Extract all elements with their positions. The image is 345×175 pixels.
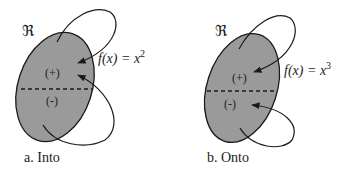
panel-onto: ℜ (+) (-) f(x) = x3 b. Onto [191,16,331,165]
mapping-diagram: ℜ (+) (-) f(x) = x2 a. Into ℜ (+) (-) f(… [0,0,345,175]
function-label: f(x) = x2 [98,48,145,67]
real-numbers-region [3,22,108,151]
negative-label: (-) [46,94,58,108]
negative-label: (-) [224,97,236,111]
positive-label: (+) [45,66,60,80]
caption: b. Onto [207,150,249,165]
panel-into: ℜ (+) (-) f(x) = x2 a. Into [3,10,146,165]
set-symbol-real: ℜ [22,23,35,39]
caption: a. Into [24,150,60,165]
set-symbol-real: ℜ [215,23,228,39]
positive-label: (+) [232,71,247,85]
function-label: f(x) = x3 [284,60,331,79]
